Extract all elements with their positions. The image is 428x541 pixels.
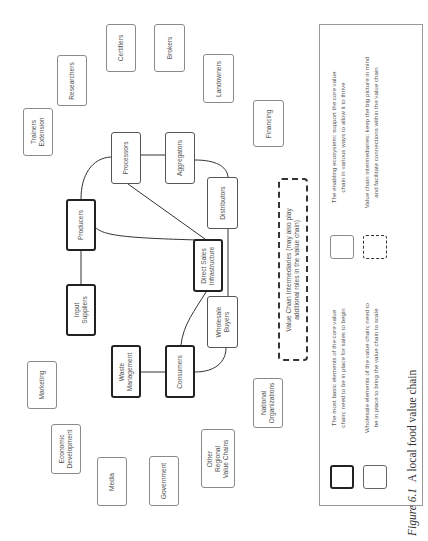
caption-text: A local food value chain xyxy=(406,370,418,482)
label: Buyers xyxy=(223,312,230,333)
box-aggregators: Aggregators xyxy=(165,132,195,184)
link-producers-direct xyxy=(96,228,197,240)
link-direct-consumers xyxy=(181,292,206,345)
label: Trainers xyxy=(30,120,37,144)
box-government: Government xyxy=(149,456,179,506)
label: Wholesale xyxy=(215,307,222,338)
label: Producers xyxy=(77,210,85,240)
box-wholesale-buyers: WholesaleBuyers xyxy=(207,296,238,348)
link-aggregators-distributors xyxy=(195,160,228,177)
label: National xyxy=(260,391,267,415)
legend-swatch-ecosystem xyxy=(330,235,354,259)
label: Researchers xyxy=(68,62,76,99)
legend-swatch-wholesale xyxy=(363,465,387,489)
label: Infrastructure xyxy=(208,246,215,285)
label: Direct Sales xyxy=(200,248,207,284)
label: Development xyxy=(66,430,73,469)
label: Government xyxy=(160,463,168,499)
box-consumers: Consumers xyxy=(165,345,195,398)
box-other-regional-value-chains: OtherRegionalValue Chains xyxy=(201,429,235,488)
link-processors-direct xyxy=(128,184,205,239)
box-trainers-extension: TrainersExtension xyxy=(23,108,53,156)
box-marketing: Marketing xyxy=(27,361,57,409)
legend-swatch-intermediaries xyxy=(363,235,387,259)
label: Value Chains xyxy=(222,439,229,478)
label: Input xyxy=(73,303,80,318)
box-brokers: Brokers xyxy=(154,24,185,72)
label: Extension xyxy=(38,118,45,147)
label: Brokers xyxy=(166,37,174,60)
box-certifiers: Certifiers xyxy=(106,24,136,72)
label: Economic xyxy=(58,435,65,464)
legend-swatch-core xyxy=(330,465,354,489)
caption-label: Figure 6.1 xyxy=(406,488,418,536)
box-producers: Producers xyxy=(66,199,96,251)
legend-text-ecosystem: The enabling ecosystem: support the core… xyxy=(330,50,347,225)
label: Marketing xyxy=(38,371,46,400)
label: Other xyxy=(206,450,213,467)
label: Media xyxy=(108,473,116,491)
box-financing: Financing xyxy=(253,100,284,147)
label: Waste xyxy=(118,362,125,380)
figure-caption: Figure 6.1 A local food value chain xyxy=(406,370,418,536)
box-distributors: Distributors xyxy=(207,177,238,229)
box-national-organizations: NationalOrganizations xyxy=(253,378,283,428)
legend-text-wholesale: Wholesale elements of the value chain; n… xyxy=(363,283,380,453)
legend-text-intermediaries: Value chain intermediaries: keep the big… xyxy=(363,40,380,225)
box-landowners: Landowners xyxy=(203,54,234,103)
box-media: Media xyxy=(97,457,127,506)
label: Financing xyxy=(265,109,273,138)
box-waste-management: WasteManagement xyxy=(111,345,141,398)
box-processors: Processors xyxy=(111,132,141,184)
label: Suppliers xyxy=(81,296,88,324)
label: Consumers xyxy=(176,355,184,389)
label: Management xyxy=(126,352,133,391)
box-economic-development: EconomicDevelopment xyxy=(51,424,81,474)
link-producers-processors xyxy=(81,157,111,199)
label: Processors xyxy=(122,142,130,175)
box-direct-sales-infrastructure: Direct SalesInfrastructure xyxy=(193,239,223,292)
link-wholesale-consumers xyxy=(195,348,226,372)
box-researchers: Researchers xyxy=(57,55,87,106)
label: Certifiers xyxy=(117,35,125,61)
legend-text-core: The most basic elements of the core valu… xyxy=(330,283,347,453)
box-input-suppliers: InputSuppliers xyxy=(66,284,96,336)
label: Organizations xyxy=(268,383,275,424)
label: Distributors xyxy=(219,186,227,219)
label: Regional xyxy=(214,445,221,471)
label: additional roles in the value chain) xyxy=(293,220,300,320)
box-value-chain-intermediaries: Value Chain Intermediaries (may also pla… xyxy=(278,178,308,361)
label: Value Chain Intermediaries (may also pla… xyxy=(285,208,292,331)
label: Landowners xyxy=(215,61,223,97)
label: Aggregators xyxy=(176,140,184,176)
